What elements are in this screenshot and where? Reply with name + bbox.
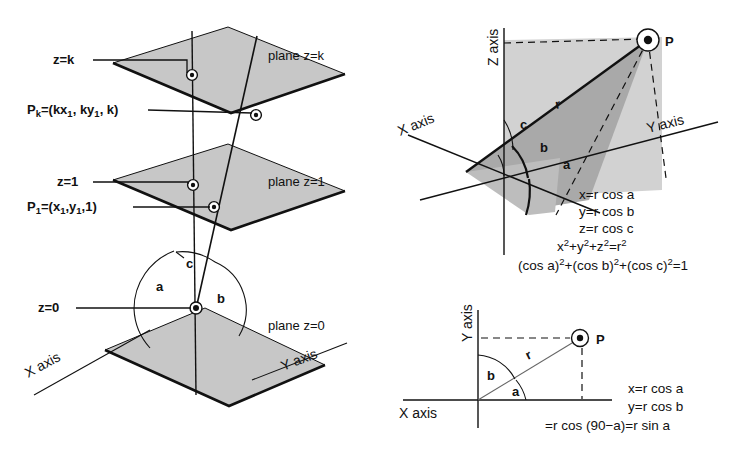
label-left-angle-c: c bbox=[186, 256, 193, 271]
label-plane-z-0: plane z=0 bbox=[268, 318, 325, 333]
equation-y-3d: y=r cos b bbox=[579, 204, 634, 219]
label-radius-2d: r bbox=[523, 347, 534, 363]
equation-x-3d: x=r cos a bbox=[579, 187, 635, 202]
label-angle-b-2d: b bbox=[487, 368, 495, 383]
label-left-angle-b: b bbox=[217, 291, 225, 306]
label-point-p1: P1=(x1,y1,1) bbox=[27, 199, 97, 216]
label-z-axis-3d: Z axis bbox=[485, 29, 501, 66]
label-angle-a-2d: a bbox=[512, 384, 520, 399]
label-point-p-2d: P bbox=[596, 332, 605, 347]
angle-arc-b-2d bbox=[478, 355, 515, 379]
equation-identity-3d: (cos a)2+(cos b)2+(cos c)2=1 bbox=[518, 256, 688, 273]
marker-plane-k-axis bbox=[187, 70, 198, 81]
angle-arc-a bbox=[134, 251, 174, 309]
label-x-axis-3d: X axis bbox=[395, 110, 436, 139]
marker-plane-1-axis bbox=[188, 180, 199, 191]
label-plane-z-1: plane z=1 bbox=[268, 174, 325, 189]
marker-point-p1 bbox=[209, 202, 220, 213]
plane-z-k-shape bbox=[113, 27, 345, 113]
equation-z-3d: z=r cos c bbox=[579, 221, 634, 236]
marker-point-pk bbox=[251, 110, 262, 121]
label-angle-a-3d: a bbox=[563, 157, 571, 172]
equation-y-2d: y=r cos b bbox=[628, 399, 683, 414]
label-z-k: z=k bbox=[53, 52, 75, 67]
equation-pythagoras-3d: x2+y2+z2=r2 bbox=[557, 237, 627, 254]
left-diagram: z=k Pk=(kx1, ky1, k) z=1 P1=(x1,y1,1) z=… bbox=[22, 27, 347, 406]
top-right-diagram: Z axis X axis Y axis P r c b a x=r cos a… bbox=[395, 28, 718, 273]
bottom-right-diagram: Y axis X axis P r b a x=r cos a y=r cos … bbox=[399, 304, 684, 433]
label-point-pk: Pk=(kx1, ky1, k) bbox=[27, 102, 118, 119]
marker-point-p-3d bbox=[637, 29, 659, 51]
label-angle-c-3d: c bbox=[520, 117, 527, 132]
marker-point-p-2d bbox=[572, 330, 589, 347]
label-point-p-3d: P bbox=[665, 34, 674, 49]
label-left-x-axis: X axis bbox=[22, 348, 63, 380]
label-left-angle-a: a bbox=[156, 279, 164, 294]
label-z-0: z=0 bbox=[38, 300, 59, 315]
label-z-1: z=1 bbox=[57, 174, 78, 189]
equation-x-2d: x=r cos a bbox=[628, 381, 684, 396]
label-plane-z-k: plane z=k bbox=[268, 48, 325, 63]
figure-canvas: z=k Pk=(kx1, ky1, k) z=1 P1=(x1,y1,1) z=… bbox=[0, 0, 743, 457]
equation-sin-2d: =r cos (90−a)=r sin a bbox=[545, 418, 670, 433]
marker-origin bbox=[190, 302, 202, 314]
label-y-axis-2d: Y axis bbox=[459, 304, 475, 342]
label-x-axis-2d: X axis bbox=[399, 405, 437, 421]
label-angle-b-3d: b bbox=[540, 140, 548, 155]
angle-arc-c-leg bbox=[176, 252, 184, 258]
